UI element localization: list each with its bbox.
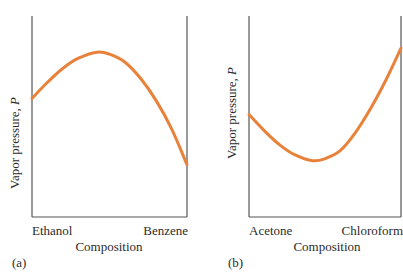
- panel-a-y-axis-label: Vapor pressure, P: [7, 97, 22, 189]
- figure: Vapor pressure, P Ethanol Benzene Compos…: [0, 0, 403, 275]
- panel-a-right-component-label: Benzene: [143, 223, 188, 238]
- panel-a-vapor-pressure-curve: [32, 52, 187, 165]
- panel-a-x-axis-label: Composition: [75, 239, 143, 254]
- panel-a-left-component-label: Ethanol: [32, 223, 73, 238]
- panel-b-vapor-pressure-curve: [249, 48, 401, 161]
- panel-a-caption-label: (a): [12, 255, 26, 270]
- panel-b-left-component-label: Acetone: [249, 223, 293, 238]
- panel-b-x-axis-label: Composition: [293, 239, 361, 254]
- panel-b-right-component-label: Chloroform: [342, 223, 403, 238]
- panel-b-caption-label: (b): [228, 255, 243, 270]
- panel-b: Vapor pressure, P Acetone Chloroform Com…: [224, 16, 403, 270]
- panel-b-plot-frame: [249, 16, 401, 217]
- panel-a: Vapor pressure, P Ethanol Benzene Compos…: [7, 16, 188, 270]
- panel-b-y-axis-label: Vapor pressure, P: [224, 67, 239, 159]
